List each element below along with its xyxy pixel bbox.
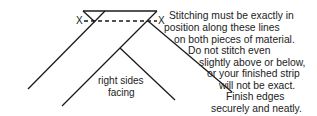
note-line: on both pieces of material.: [174, 34, 295, 45]
note-line: will not be exact.: [219, 80, 295, 91]
label-line-1: right sides: [98, 75, 144, 86]
stitch-mark-left: X: [76, 16, 83, 26]
note-line: position along these lines: [164, 22, 280, 33]
note-line: Stitching must be exactly in: [169, 10, 294, 21]
note-line: or your finished strip: [207, 68, 300, 79]
note-line: Finish edges: [226, 91, 284, 102]
note-line: slightly above or below,: [199, 57, 305, 68]
note-line: securely and neatly.: [211, 103, 302, 114]
label-line-2: facing: [108, 87, 135, 98]
left-fabric-line: [28, 11, 105, 89]
note-line: Do not stitch even: [188, 45, 270, 56]
